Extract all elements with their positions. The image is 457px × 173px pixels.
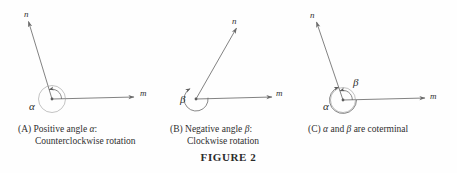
panel-a-vertex-point	[51, 98, 54, 101]
panel-b-caption: (B) Negative angle β: Clockwise rotation	[170, 123, 259, 147]
panel-a-angle-label: α	[29, 100, 35, 112]
panel-c-beta-label: β	[353, 76, 358, 88]
panel-b-initial-ray-label: m	[276, 88, 283, 98]
panel-b-initial-ray	[196, 97, 272, 99]
figure-number-label: FIGURE 2	[0, 151, 457, 163]
panel-c-caption-symbol-1: α	[323, 124, 328, 134]
panel-a-caption-text: Positive angle	[34, 124, 88, 134]
figure-diagram-svg	[0, 0, 457, 173]
panel-b-terminal-ray	[196, 28, 237, 99]
panel-a-terminal-ray	[29, 22, 53, 100]
panel-a-caption-prefix: (A)	[18, 124, 31, 134]
panel-b-angle-label: β	[180, 93, 185, 105]
panel-b-terminal-ray-label: n	[232, 16, 237, 26]
panel-b-vertex-point	[195, 98, 198, 101]
panel-a-initial-ray-label: m	[140, 88, 147, 98]
panel-c-vertex-point	[342, 99, 345, 102]
panel-c-terminal-ray-label: n	[310, 10, 315, 20]
panel-a-initial-ray	[52, 97, 134, 99]
panel-c-initial-ray-label: m	[430, 91, 437, 101]
panel-a-angle-arc	[49, 89, 61, 99]
panel-b-caption-punct: :	[249, 124, 252, 134]
panel-b-caption-text: Negative angle	[185, 124, 242, 134]
panel-a-caption-line2: Counterclockwise rotation	[18, 135, 136, 147]
panel-c-alpha-arc	[340, 90, 352, 100]
panel-c-caption-prefix: (C)	[308, 124, 321, 134]
panel-c-caption: (C) α and β are coterminal	[308, 123, 408, 135]
panel-b-diagram	[184, 28, 272, 111]
panel-c-caption-tail: are coterminal	[354, 124, 409, 134]
panel-c-caption-symbol-2: β	[347, 124, 352, 134]
panel-a-caption-punct: :	[95, 124, 98, 134]
panel-c-alpha-label: α	[323, 100, 329, 112]
panel-a-terminal-ray-label: n	[24, 9, 29, 19]
panel-a-caption: (A) Positive angle α: Counterclockwise r…	[18, 123, 136, 147]
panel-c-caption-mid: and	[330, 124, 344, 134]
panel-b-caption-line2: Clockwise rotation	[170, 135, 259, 147]
panel-b-caption-prefix: (B)	[170, 124, 183, 134]
panel-a-diagram	[29, 22, 135, 113]
panel-c-diagram	[317, 22, 426, 113]
figure-2-container: n m α n m β n m α β (A) Positive angle α…	[0, 0, 457, 173]
